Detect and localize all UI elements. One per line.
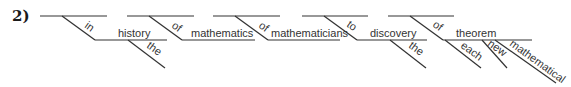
word-theorem: theorem	[456, 27, 496, 39]
word-of-2: of	[257, 19, 272, 35]
word-mathematical: mathematical	[508, 37, 568, 85]
word-in: in	[83, 19, 97, 34]
word-of-3: of	[431, 18, 446, 34]
sentence-diagram: in history the of mathematics of mathema…	[0, 0, 571, 87]
word-mathematicians: mathematicians	[271, 27, 349, 39]
word-discovery: discovery	[370, 27, 417, 39]
word-each: each	[459, 39, 485, 63]
word-mathematics: mathematics	[191, 27, 254, 39]
word-history: history	[118, 27, 151, 39]
